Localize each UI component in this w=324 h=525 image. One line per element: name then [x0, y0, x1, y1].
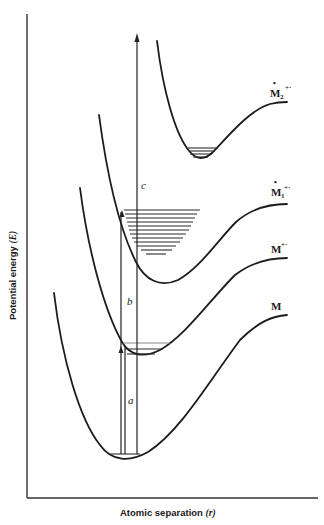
svg-text:M: M — [271, 300, 282, 312]
curve-M2-star — [157, 41, 287, 158]
svg-text:•: • — [273, 79, 276, 88]
svg-text:+·: +· — [284, 184, 290, 192]
svg-text:+·: +· — [281, 241, 287, 249]
potential-energy-diagram: a b c M • 2 +· M • 1 +· M +· M Potential… — [0, 0, 324, 525]
arrow-head-icon — [120, 210, 125, 217]
vib-levels-M-ion — [123, 343, 170, 354]
curve-M — [54, 293, 287, 459]
label-M: M — [271, 300, 282, 312]
x-axis-title: Atomic separation (r) — [120, 507, 216, 519]
y-axis-title: Potential energy (E) — [7, 231, 19, 320]
svg-text:+·: +· — [285, 84, 291, 92]
arrow-head-icon — [119, 346, 124, 353]
label-M2-star: M • 2 +· — [270, 79, 291, 101]
curve-M1-star — [99, 115, 287, 283]
svg-text:2: 2 — [280, 93, 284, 101]
label-M1-star: M • 1 +· — [271, 178, 290, 200]
label-M-ion: M +· — [271, 241, 287, 255]
svg-text:•: • — [274, 178, 277, 187]
transition-lines — [119, 33, 140, 454]
transition-label-a: a — [128, 394, 134, 406]
svg-text:1: 1 — [281, 192, 285, 200]
transition-label-b: b — [127, 295, 133, 307]
transition-label-c: c — [141, 179, 146, 191]
arrow-head-icon — [135, 33, 140, 42]
curve-M-ion — [80, 188, 287, 355]
vib-levels-M1-star — [124, 210, 200, 254]
